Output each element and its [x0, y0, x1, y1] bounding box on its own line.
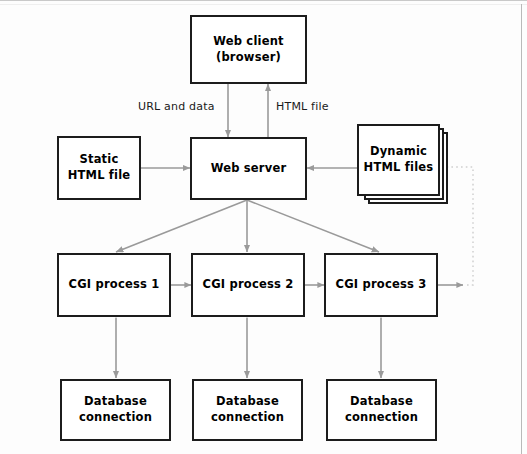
node-database-connection-3[interactable]: Database connection — [326, 379, 437, 441]
node-db-1-line1: Database — [79, 394, 152, 410]
node-web-client-line2: (browser) — [213, 50, 284, 66]
node-cgi-process-1[interactable]: CGI process 1 — [57, 253, 171, 317]
edge-server-to-cgi-1 — [116, 200, 247, 252]
node-web-client-line1: Web client — [213, 34, 284, 50]
node-cgi-process-3-label: CGI process 3 — [336, 277, 427, 293]
node-db-3-line1: Database — [345, 394, 418, 410]
node-cgi-process-1-label: CGI process 1 — [69, 277, 160, 293]
node-dynamic-html-line2: HTML files — [364, 160, 434, 176]
node-db-1-line2: connection — [79, 410, 152, 426]
node-db-3-line2: connection — [345, 410, 418, 426]
node-dynamic-html-line1: Dynamic — [364, 144, 434, 160]
node-cgi-process-2[interactable]: CGI process 2 — [191, 253, 305, 317]
edge-server-to-cgi-3 — [247, 200, 379, 252]
node-web-server[interactable]: Web server — [190, 137, 307, 200]
node-web-server-line1: Web server — [211, 161, 287, 177]
node-static-html-file[interactable]: Static HTML file — [57, 136, 141, 200]
node-db-2-line1: Database — [211, 394, 284, 410]
node-web-client[interactable]: Web client (browser) — [190, 15, 307, 84]
edge-label-html-file: HTML file — [276, 100, 329, 113]
node-database-connection-1[interactable]: Database connection — [60, 379, 171, 441]
node-db-2-line2: connection — [211, 410, 284, 426]
node-cgi-process-2-label: CGI process 2 — [203, 277, 294, 293]
node-static-html-line1: Static — [68, 152, 131, 168]
node-dynamic-html-files[interactable]: Dynamic HTML files — [357, 124, 440, 196]
node-database-connection-2[interactable]: Database connection — [192, 379, 303, 441]
node-static-html-line2: HTML file — [68, 168, 131, 184]
diagram-canvas: URL and data HTML file Web client (brows… — [0, 0, 527, 454]
edge-label-url-and-data: URL and data — [138, 100, 215, 113]
node-cgi-process-3[interactable]: CGI process 3 — [324, 253, 438, 317]
